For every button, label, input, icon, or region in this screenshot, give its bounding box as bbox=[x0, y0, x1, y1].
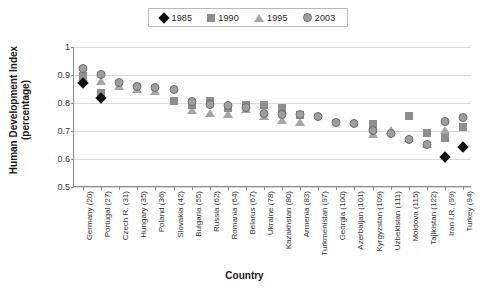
x-tick-mark bbox=[282, 186, 283, 190]
y-tick-mark bbox=[71, 75, 74, 76]
x-category-label: Hungary (35) bbox=[139, 191, 148, 238]
legend-item-2003[interactable]: 2003 bbox=[303, 13, 336, 23]
circle-marker-icon bbox=[151, 83, 160, 92]
data-point-2003 bbox=[350, 114, 359, 132]
y-axis-title: Human Development Index (percentage) bbox=[6, 30, 34, 190]
x-category-label: Kyrgyzstan (109) bbox=[375, 191, 384, 251]
data-point-1990 bbox=[441, 128, 449, 146]
y-tick-label: 0.9 bbox=[57, 70, 70, 80]
legend-item-1985[interactable]: 1985 bbox=[160, 13, 192, 23]
x-category-label: Kazakhstan (80) bbox=[284, 191, 293, 249]
data-point-2003 bbox=[314, 107, 323, 125]
data-point-2003 bbox=[133, 77, 142, 95]
x-category-label: Ukraine (78) bbox=[266, 191, 275, 235]
circle-marker-icon bbox=[368, 126, 377, 135]
circle-marker-icon bbox=[241, 103, 250, 112]
diamond-marker-icon bbox=[159, 12, 170, 23]
data-point-2003 bbox=[259, 104, 268, 122]
legend-item-1990[interactable]: 1990 bbox=[207, 13, 239, 23]
x-category-label: Turkey (94) bbox=[465, 191, 474, 232]
x-tick-mark bbox=[119, 186, 120, 190]
circle-marker-icon bbox=[422, 140, 431, 149]
y-tick-label: 1 bbox=[65, 42, 70, 52]
x-tick-mark bbox=[83, 186, 84, 190]
x-category-label: Iran I.R. (99) bbox=[447, 191, 456, 236]
data-point-2003 bbox=[458, 108, 467, 126]
x-category-label: Georgia (100) bbox=[338, 191, 347, 240]
x-category-label: Slovakia (42) bbox=[176, 191, 185, 238]
circle-marker-icon bbox=[133, 82, 142, 91]
x-tick-mark bbox=[318, 186, 319, 190]
circle-marker-icon bbox=[278, 110, 287, 119]
gridline bbox=[74, 47, 471, 48]
data-point-2003 bbox=[422, 135, 431, 153]
data-point-2003 bbox=[187, 92, 196, 110]
chart-root: 1985199019952003 Human Development Index… bbox=[0, 0, 489, 298]
y-tick-label: 0.5 bbox=[57, 182, 70, 192]
circle-marker-icon bbox=[458, 113, 467, 122]
legend-item-1995[interactable]: 1995 bbox=[254, 13, 288, 23]
circle-marker-icon bbox=[440, 117, 449, 126]
x-category-label: Belarus (67) bbox=[248, 191, 257, 235]
x-axis-category-labels: Germany (20)Portugal (27)Czech R. (31)Hu… bbox=[73, 191, 471, 267]
square-marker-icon bbox=[207, 14, 215, 22]
data-point-1985 bbox=[79, 73, 87, 91]
circle-marker-icon bbox=[332, 118, 341, 127]
y-tick-mark bbox=[71, 47, 74, 48]
circle-marker-icon bbox=[205, 100, 214, 109]
circle-marker-icon bbox=[314, 112, 323, 121]
x-tick-mark bbox=[300, 186, 301, 190]
diamond-marker-icon bbox=[95, 92, 106, 103]
circle-marker-icon bbox=[97, 70, 106, 79]
x-category-label: Czech R. (31) bbox=[121, 191, 130, 240]
x-category-label: Uzbekistan (111) bbox=[393, 191, 402, 250]
data-point-2003 bbox=[223, 96, 232, 114]
circle-marker-icon bbox=[296, 110, 305, 119]
circle-marker-icon bbox=[79, 64, 88, 73]
diamond-marker-icon bbox=[77, 77, 88, 88]
data-point-2003 bbox=[386, 124, 395, 142]
data-point-2003 bbox=[332, 113, 341, 131]
data-point-2003 bbox=[278, 105, 287, 123]
x-category-label: Portugal (27) bbox=[103, 191, 112, 237]
x-category-label: Romania (64) bbox=[230, 191, 239, 239]
x-tick-mark bbox=[391, 186, 392, 190]
x-tick-mark bbox=[264, 186, 265, 190]
x-tick-mark bbox=[445, 186, 446, 190]
diamond-marker-icon bbox=[457, 142, 468, 153]
legend-label: 1995 bbox=[267, 13, 288, 23]
diamond-marker-icon bbox=[439, 151, 450, 162]
data-point-2003 bbox=[404, 130, 413, 148]
x-tick-mark bbox=[137, 186, 138, 190]
square-marker-icon bbox=[441, 134, 449, 142]
circle-marker-icon bbox=[223, 101, 232, 110]
data-point-1985 bbox=[459, 137, 467, 155]
circle-marker-icon bbox=[350, 119, 359, 128]
data-point-1985 bbox=[97, 88, 105, 106]
legend-label: 1990 bbox=[218, 13, 239, 23]
data-point-2003 bbox=[205, 95, 214, 113]
circle-marker-icon bbox=[169, 85, 178, 94]
data-point-2003 bbox=[151, 78, 160, 96]
x-tick-mark bbox=[409, 186, 410, 190]
x-category-label: Bulgaria (55) bbox=[194, 191, 203, 237]
x-tick-mark bbox=[427, 186, 428, 190]
chart-legend: 1985199019952003 bbox=[148, 8, 348, 27]
circle-marker-icon bbox=[303, 13, 312, 22]
x-tick-mark bbox=[174, 186, 175, 190]
x-tick-mark bbox=[155, 186, 156, 190]
gridline bbox=[74, 103, 471, 104]
gridline bbox=[74, 187, 471, 188]
x-tick-mark bbox=[228, 186, 229, 190]
square-marker-icon bbox=[405, 112, 413, 120]
circle-marker-icon bbox=[115, 78, 124, 87]
circle-marker-icon bbox=[259, 109, 268, 118]
data-point-1985 bbox=[441, 147, 449, 165]
x-tick-mark bbox=[373, 186, 374, 190]
circle-marker-icon bbox=[404, 135, 413, 144]
x-category-label: Poland (36) bbox=[157, 191, 166, 232]
y-tick-label: 0.8 bbox=[57, 98, 70, 108]
x-tick-mark bbox=[101, 186, 102, 190]
x-category-label: Tajikistan (122) bbox=[429, 191, 438, 245]
y-tick-mark bbox=[71, 159, 74, 160]
